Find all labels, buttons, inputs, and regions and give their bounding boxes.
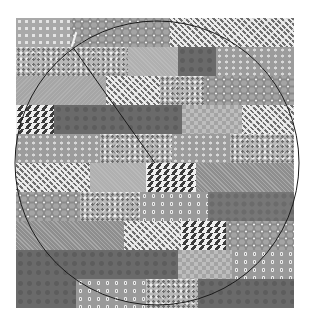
fabric-block-floral xyxy=(230,134,294,163)
fabric-block-dots-grey xyxy=(172,134,230,163)
fabric-block-weave xyxy=(106,76,160,105)
fabric-block-dots-light xyxy=(16,18,70,47)
quilt-row xyxy=(16,134,294,163)
fabric-block-dark-mid xyxy=(208,192,294,221)
fabric-block-hex-dots xyxy=(70,18,170,47)
fabric-block-weave xyxy=(16,163,90,192)
fabric-block-hex-dots xyxy=(16,192,80,221)
fabric-block-diamonds xyxy=(181,221,226,250)
patchwork-quilt xyxy=(16,18,294,308)
fabric-block-hex-dots xyxy=(226,221,294,250)
fabric-block-dots-ring xyxy=(140,192,208,221)
fabric-block-diag xyxy=(16,221,124,250)
fabric-block-dots-grey xyxy=(216,47,294,76)
fabric-block-light-plain xyxy=(16,76,106,105)
fabric-block-dots-ring xyxy=(232,250,294,279)
fabric-block-diamonds xyxy=(16,105,54,134)
fabric-block-weave xyxy=(124,221,181,250)
fabric-block-diamonds xyxy=(146,163,196,192)
quilt-row xyxy=(16,279,294,308)
fabric-block-hex-dots xyxy=(204,76,294,105)
quilt-row xyxy=(16,221,294,250)
fabric-block-weave xyxy=(242,105,294,134)
fabric-block-dark xyxy=(16,279,76,308)
quilt-row xyxy=(16,18,294,47)
fabric-block-dots-grey xyxy=(16,134,100,163)
fabric-block-light-check xyxy=(178,250,232,279)
fabric-block-dark xyxy=(16,250,178,279)
quilt-row xyxy=(16,76,294,105)
fabric-block-floral xyxy=(160,76,204,105)
fabric-block-light-check xyxy=(182,105,242,134)
fabric-block-floral xyxy=(146,279,198,308)
fabric-block-light-solid xyxy=(128,47,178,76)
fabric-block-dark xyxy=(178,47,216,76)
fabric-block-weave xyxy=(170,18,294,47)
quilt-row xyxy=(16,250,294,279)
fabric-block-dots-ring xyxy=(76,279,146,308)
fabric-block-floral xyxy=(100,134,172,163)
fabric-block-dark xyxy=(54,105,182,134)
fabric-block-diag xyxy=(196,163,294,192)
fabric-block-light-solid xyxy=(90,163,146,192)
quilt-row xyxy=(16,192,294,221)
quilt-row xyxy=(16,105,294,134)
fabric-block-floral xyxy=(80,192,140,221)
fabric-block-dark xyxy=(198,279,294,308)
quilt-row xyxy=(16,163,294,192)
quilt-row xyxy=(16,47,294,76)
fabric-block-floral xyxy=(16,47,128,76)
